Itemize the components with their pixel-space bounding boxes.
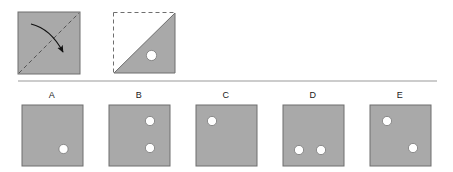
option-a[interactable]: [22, 105, 83, 166]
option-a-hole-1: [59, 144, 68, 153]
option-b-hole-2: [145, 143, 154, 152]
option-e-square[interactable]: [370, 105, 431, 166]
unfolded-square-panel: [18, 12, 80, 74]
option-label-c: C: [211, 90, 241, 100]
option-e-hole-2: [408, 143, 417, 152]
paper-folding-puzzle: [0, 0, 453, 172]
option-c-hole-1: [207, 116, 216, 125]
folded-triangle-panel: [114, 13, 176, 74]
punched-hole: [146, 50, 156, 60]
option-b-square[interactable]: [109, 105, 170, 166]
option-e-hole-1: [382, 116, 391, 125]
option-label-d: D: [298, 90, 328, 100]
option-a-square[interactable]: [22, 105, 83, 166]
prompt-row: [18, 12, 176, 74]
option-d-square[interactable]: [283, 105, 344, 166]
option-label-a: A: [37, 90, 67, 100]
option-label-e: E: [385, 90, 415, 100]
option-d[interactable]: [283, 105, 344, 166]
option-c[interactable]: [196, 105, 257, 166]
option-b[interactable]: [109, 105, 170, 166]
options-row: [22, 105, 431, 166]
option-c-square[interactable]: [196, 105, 257, 166]
folded-triangle: [114, 13, 175, 73]
option-e[interactable]: [370, 105, 431, 166]
option-d-hole-1: [294, 145, 303, 154]
option-label-b: B: [124, 90, 154, 100]
option-d-hole-2: [316, 145, 325, 154]
option-b-hole-1: [145, 116, 154, 125]
